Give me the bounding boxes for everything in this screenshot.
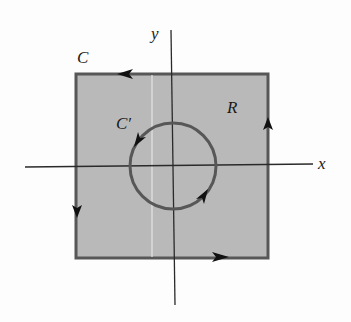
region-label: R bbox=[226, 98, 238, 117]
diagram-canvas: y x C C′ R bbox=[0, 0, 351, 322]
green-theorem-diagram: y x C C′ R bbox=[0, 0, 351, 322]
x-axis-label: x bbox=[317, 154, 326, 173]
y-axis-label: y bbox=[149, 24, 159, 43]
inner-curve-label: C′ bbox=[116, 114, 131, 133]
outer-curve-label: C bbox=[77, 48, 89, 67]
